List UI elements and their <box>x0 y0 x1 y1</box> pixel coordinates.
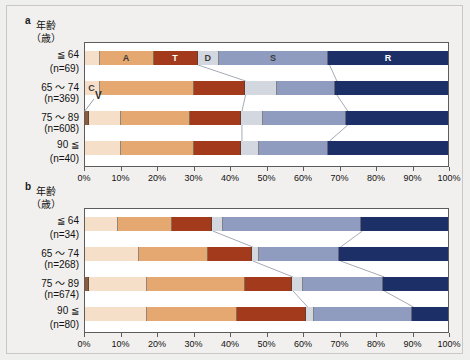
segment-D-b-row3 <box>306 307 313 321</box>
segment-S-b-row3 <box>314 307 412 321</box>
ylabel-age-b-row3: 90 ≦ <box>13 305 79 316</box>
xtick-label-a-50: 50% <box>247 173 287 183</box>
figure-frame: a年齢（歳）ATDSRC≦ 64(n=69)65 〜 74(n=369)75 〜… <box>6 5 463 354</box>
xtick-a-100 <box>449 167 450 171</box>
segment-T-b-row0 <box>172 217 212 231</box>
segment-R-a-row0: R <box>328 51 448 65</box>
xtick-b-40 <box>230 333 231 337</box>
ylabel-age-b-row0: ≦ 64 <box>13 215 79 226</box>
ylabel-count-a-row2: (n=608) <box>13 123 79 134</box>
xtick-label-b-90: 90% <box>393 339 433 349</box>
bar-a-row1: C <box>85 81 448 95</box>
xtick-b-50 <box>267 333 268 337</box>
segment-T-a-row1 <box>194 81 245 95</box>
segment-label-C: C <box>88 83 95 93</box>
segment-T-a-row3 <box>194 141 241 155</box>
axis-header-unit: （歳） <box>15 196 77 211</box>
xtick-b-70 <box>340 333 341 337</box>
segment-R-a-row1 <box>335 81 448 95</box>
segment-D-b-row0 <box>212 217 223 231</box>
segment-A-b-row1 <box>139 247 208 261</box>
xtick-label-a-80: 80% <box>356 173 396 183</box>
segment-A-a-row3 <box>121 141 194 155</box>
xtick-label-b-80: 80% <box>356 339 396 349</box>
segment-S-b-row1 <box>259 247 339 261</box>
segment-C-b-row3 <box>85 307 147 321</box>
ylabel-count-b-row2: (n=674) <box>13 289 79 300</box>
xtick-a-50 <box>267 167 268 171</box>
ylabel-age-a-row1: 65 〜 74 <box>13 79 79 94</box>
segment-R-b-row2 <box>383 277 448 291</box>
xtick-a-20 <box>157 167 158 171</box>
segment-S-b-row2 <box>303 277 383 291</box>
xtick-b-10 <box>121 333 122 337</box>
xtick-label-b-100: 100% <box>429 339 469 349</box>
xtick-a-90 <box>413 167 414 171</box>
plot-area-b <box>84 208 449 333</box>
segment-D-b-row2 <box>292 277 303 291</box>
bar-a-row2 <box>85 111 448 125</box>
segment-R-b-row1 <box>339 247 448 261</box>
segment-A-b-row3 <box>147 307 238 321</box>
xtick-a-0 <box>84 167 85 171</box>
segment-R-a-row3 <box>328 141 448 155</box>
segment-S-a-row2 <box>263 111 346 125</box>
xtick-b-90 <box>413 333 414 337</box>
xtick-label-b-30: 30% <box>174 339 214 349</box>
xtick-label-b-10: 10% <box>101 339 141 349</box>
segment-label-S: S <box>270 53 276 63</box>
xtick-label-a-0: 0% <box>64 173 104 183</box>
axis-header-unit: （歳） <box>15 30 77 45</box>
segment-D-a-row3 <box>241 141 259 155</box>
segment-A-a-row0: A <box>100 51 154 65</box>
xtick-a-80 <box>376 167 377 171</box>
segment-C-a-row1: C <box>85 81 100 95</box>
ylabel-age-b-row1: 65 〜 74 <box>13 245 79 260</box>
segment-C-b-row2 <box>89 277 147 291</box>
segment-C-a-row0 <box>85 51 100 65</box>
segment-D-a-row1 <box>245 81 278 95</box>
segment-D-b-row1 <box>252 247 259 261</box>
ylabel-age-b-row2: 75 〜 89 <box>13 275 79 290</box>
xtick-b-100 <box>449 333 450 337</box>
xtick-label-a-100: 100% <box>429 173 469 183</box>
ylabel-count-b-row1: (n=268) <box>13 259 79 270</box>
segment-T-b-row3 <box>237 307 306 321</box>
segment-label-A: A <box>123 53 130 63</box>
segment-A-b-row0 <box>118 217 172 231</box>
ylabel-age-a-row2: 75 〜 89 <box>13 109 79 124</box>
xtick-label-b-60: 60% <box>283 339 323 349</box>
segment-T-a-row2 <box>190 111 241 125</box>
bar-b-row0 <box>85 217 448 231</box>
xtick-label-a-30: 30% <box>174 173 214 183</box>
segment-S-a-row1 <box>277 81 335 95</box>
segment-R-b-row0 <box>361 217 448 231</box>
xtick-a-70 <box>340 167 341 171</box>
xtick-label-a-10: 10% <box>101 173 141 183</box>
bar-b-row1 <box>85 247 448 261</box>
xtick-label-a-60: 60% <box>283 173 323 183</box>
xtick-label-a-90: 90% <box>393 173 433 183</box>
xtick-label-a-20: 20% <box>137 173 177 183</box>
xtick-a-30 <box>194 167 195 171</box>
xtick-label-b-50: 50% <box>247 339 287 349</box>
xtick-b-20 <box>157 333 158 337</box>
segment-label-D: D <box>204 53 211 63</box>
xtick-label-a-70: 70% <box>320 173 360 183</box>
xtick-b-80 <box>376 333 377 337</box>
segment-S-b-row0 <box>223 217 361 231</box>
segment-C-b-row1 <box>85 247 139 261</box>
bar-a-row0: ATDSR <box>85 51 448 65</box>
segment-T-b-row1 <box>208 247 252 261</box>
ylabel-age-a-row0: ≦ 64 <box>13 49 79 60</box>
segment-T-a-row0: T <box>154 51 198 65</box>
ylabel-age-a-row3: 90 ≦ <box>13 139 79 150</box>
segment-T-b-row2 <box>245 277 292 291</box>
ylabel-count-b-row3: (n=80) <box>13 319 79 330</box>
segment-A-a-row2 <box>121 111 190 125</box>
ylabel-count-a-row3: (n=40) <box>13 153 79 164</box>
segment-A-a-row1 <box>100 81 194 95</box>
xtick-a-60 <box>303 167 304 171</box>
segment-D-a-row2 <box>241 111 263 125</box>
xtick-b-60 <box>303 333 304 337</box>
